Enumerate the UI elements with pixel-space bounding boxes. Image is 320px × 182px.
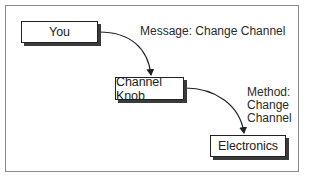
arrow-you-to-knob xyxy=(99,32,151,75)
node-label: Channel Knob xyxy=(116,75,183,103)
node-label: Electronics xyxy=(218,139,278,153)
edge-label-line: Channel xyxy=(247,112,292,125)
edge-label-method: Method: Change Channel xyxy=(247,86,292,125)
node-electronics: Electronics xyxy=(210,135,286,157)
edge-label-message: Message: Change Channel xyxy=(140,25,285,38)
node-channel-knob: Channel Knob xyxy=(115,77,184,100)
arrow-knob-to-electronics xyxy=(185,88,244,133)
node-label: You xyxy=(49,25,70,39)
node-you: You xyxy=(21,21,98,43)
